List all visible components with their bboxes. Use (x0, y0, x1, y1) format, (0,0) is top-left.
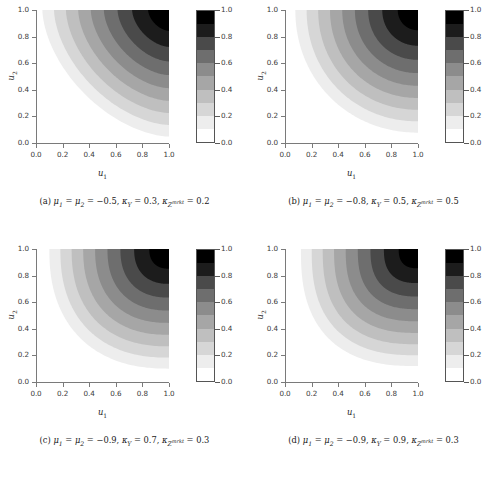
colorbar-band-c-6 (197, 289, 214, 302)
colorbar-tick-label-d-0: 0.0 (470, 377, 481, 386)
x-tick-label-a-5: 1.0 (156, 150, 182, 159)
colorbar-band-a-8 (197, 24, 214, 37)
colorbar-band-c-4 (197, 315, 214, 328)
colorbar-tick-b-1 (464, 116, 469, 117)
y-tick-b-3 (281, 63, 285, 64)
colorbar-tick-b-4 (464, 37, 469, 38)
x-tick-label-c-5: 1.0 (156, 389, 182, 398)
colorbar-tick-label-a-3: 0.6 (221, 58, 232, 67)
colorbar-d (445, 249, 464, 382)
colorbar-band-a-6 (197, 50, 214, 63)
colorbar-band-c-0 (197, 368, 214, 381)
colorbar-band-c-9 (197, 250, 214, 263)
y-tick-label-c-2: 0.4 (3, 324, 29, 333)
x-tick-label-c-4: 0.8 (129, 389, 155, 398)
y-axis-line-b (285, 10, 286, 143)
colorbar-tick-label-c-5: 1.0 (221, 244, 232, 253)
x-tick-b-1 (312, 144, 313, 148)
x-tick-label-c-0: 0.0 (23, 389, 49, 398)
colorbar-band-a-3 (197, 90, 214, 103)
x-tick-c-3 (116, 383, 117, 387)
x-tick-c-0 (36, 383, 37, 387)
y-tick-label-b-0: 0.0 (252, 138, 278, 147)
colorbar-band-b-0 (446, 129, 463, 142)
y-tick-label-c-4: 0.8 (3, 271, 29, 280)
y-tick-b-0 (281, 143, 285, 144)
x-axis-title-c: u1 (36, 407, 169, 419)
x-tick-a-2 (89, 144, 90, 148)
y-tick-c-4 (32, 276, 36, 277)
x-tick-label-d-2: 0.4 (325, 389, 351, 398)
y-tick-d-3 (281, 302, 285, 303)
y-tick-label-a-3: 0.6 (3, 58, 29, 67)
colorbar-tick-label-a-5: 1.0 (221, 5, 232, 14)
x-tick-label-d-1: 0.2 (299, 389, 325, 398)
y-tick-a-3 (32, 63, 36, 64)
colorbar-tick-label-d-2: 0.4 (470, 324, 481, 333)
x-tick-label-b-4: 0.8 (378, 150, 404, 159)
x-axis-title-b: u1 (285, 168, 418, 180)
y-tick-b-4 (281, 37, 285, 38)
colorbar-tick-label-a-4: 0.8 (221, 32, 232, 41)
colorbar-band-a-4 (197, 76, 214, 89)
x-tick-label-a-0: 0.0 (23, 150, 49, 159)
contour-svg-d (285, 249, 418, 382)
colorbar-band-b-5 (446, 63, 463, 76)
x-tick-label-d-4: 0.8 (378, 389, 404, 398)
x-tick-c-1 (63, 383, 64, 387)
colorbar-band-a-2 (197, 103, 214, 116)
y-tick-label-d-3: 0.6 (252, 297, 278, 306)
y-tick-d-0 (281, 382, 285, 383)
colorbar-band-b-1 (446, 116, 463, 129)
colorbar-band-d-9 (446, 250, 463, 263)
colorbar-band-c-7 (197, 276, 214, 289)
colorbar-tick-label-a-1: 0.2 (221, 111, 232, 120)
y-tick-c-2 (32, 329, 36, 330)
y-tick-c-0 (32, 382, 36, 383)
colorbar-tick-label-b-3: 0.6 (470, 58, 481, 67)
colorbar-band-d-5 (446, 302, 463, 315)
y-tick-label-a-4: 0.8 (3, 32, 29, 41)
y-tick-label-b-4: 0.8 (252, 32, 278, 41)
colorbar-tick-label-b-2: 0.4 (470, 85, 481, 94)
x-tick-b-2 (338, 144, 339, 148)
colorbar-a (196, 10, 215, 143)
x-tick-d-1 (312, 383, 313, 387)
colorbar-band-d-1 (446, 355, 463, 368)
colorbar-band-d-7 (446, 276, 463, 289)
x-tick-d-2 (338, 383, 339, 387)
colorbar-band-b-8 (446, 24, 463, 37)
x-axis-title-d: u1 (285, 407, 418, 419)
x-axis-line-a (36, 143, 169, 144)
colorbar-tick-c-3 (215, 302, 220, 303)
colorbar-tick-c-5 (215, 249, 220, 250)
y-tick-label-d-0: 0.0 (252, 377, 278, 386)
y-tick-a-0 (32, 143, 36, 144)
x-tick-label-d-3: 0.6 (352, 389, 378, 398)
y-tick-d-5 (281, 249, 285, 250)
colorbar-tick-d-2 (464, 329, 469, 330)
y-tick-b-1 (281, 116, 285, 117)
x-tick-label-d-5: 1.0 (405, 389, 431, 398)
colorbar-tick-a-1 (215, 116, 220, 117)
y-axis-line-c (36, 249, 37, 382)
panel-d: u1 u2 0.00.20.40.60.81.00.00.20.40.60.81… (249, 239, 498, 478)
y-tick-c-5 (32, 249, 36, 250)
plot-area-b: u1 u2 0.00.20.40.60.81.00.00.20.40.60.81… (249, 0, 498, 190)
x-tick-c-4 (142, 383, 143, 387)
colorbar-tick-c-4 (215, 276, 220, 277)
y-tick-label-c-1: 0.2 (3, 350, 29, 359)
colorbar-tick-a-3 (215, 63, 220, 64)
y-tick-label-c-5: 1.0 (3, 244, 29, 253)
colorbar-tick-d-0 (464, 382, 469, 383)
x-tick-a-4 (142, 144, 143, 148)
colorbar-tick-label-d-5: 1.0 (470, 244, 481, 253)
colorbar-band-d-8 (446, 263, 463, 276)
y-tick-b-2 (281, 90, 285, 91)
colorbar-band-c-5 (197, 302, 214, 315)
colorbar-tick-b-3 (464, 63, 469, 64)
y-tick-d-4 (281, 276, 285, 277)
figure-contour-grid: u1 u2 0.00.20.40.60.81.00.00.20.40.60.81… (0, 0, 498, 478)
y-tick-label-d-5: 1.0 (252, 244, 278, 253)
colorbar-band-a-0 (197, 129, 214, 142)
